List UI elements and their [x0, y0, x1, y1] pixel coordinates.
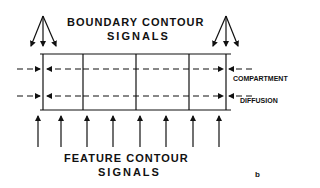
compartment-label: COMPARTMENT	[233, 75, 288, 82]
boundary-title-line1: BOUNDARY CONTOUR	[67, 16, 204, 28]
panel-label: b	[255, 170, 260, 179]
diffusion-label: DIFFUSION	[240, 97, 278, 104]
feature-title-line1: FEATURE CONTOUR	[64, 152, 189, 164]
boundary-signal-arrows-left	[31, 16, 56, 46]
feature-title-line2: SIGNALS	[98, 166, 161, 178]
boundary-title-line2: SIGNALS	[107, 30, 170, 42]
feature-signal-arrows	[38, 116, 219, 147]
boundary-signal-arrows-right	[213, 16, 238, 46]
